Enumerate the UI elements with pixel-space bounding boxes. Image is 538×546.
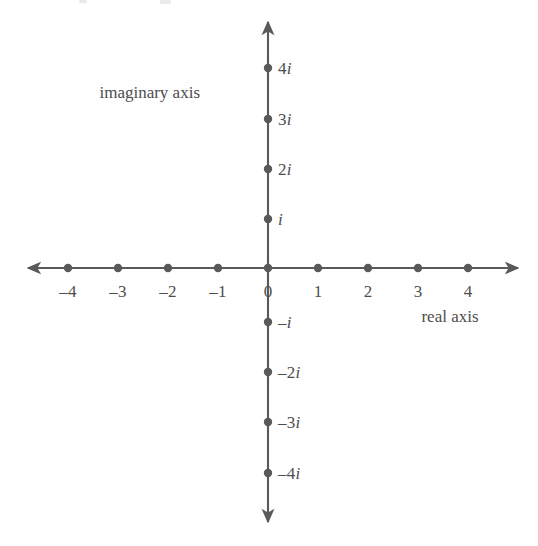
real-tick-label: –2	[159, 283, 176, 300]
tick-coefficient: –3	[278, 413, 295, 432]
imaginary-tick-label: –i	[278, 314, 292, 331]
tick-coefficient: –	[278, 313, 287, 332]
plot-point	[264, 215, 272, 223]
plot-point	[414, 264, 422, 272]
real-tick-label: 3	[414, 283, 423, 300]
imaginary-tick-label: –2i	[278, 364, 300, 381]
imaginary-unit-glyph: i	[287, 313, 292, 332]
imaginary-tick-label: –4i	[278, 465, 300, 482]
imaginary-unit-glyph: i	[287, 59, 292, 78]
plot-point	[264, 418, 272, 426]
plot-point	[264, 64, 272, 72]
tick-coefficient: –4	[278, 464, 295, 483]
axes-and-points	[0, 0, 538, 546]
real-tick-label: 0	[264, 283, 273, 300]
plot-point	[164, 264, 172, 272]
plot-point	[114, 264, 122, 272]
imaginary-unit-glyph: i	[295, 413, 300, 432]
plot-point	[264, 115, 272, 123]
plot-point	[214, 264, 222, 272]
real-tick-label: 2	[364, 283, 373, 300]
complex-plane-figure: imaginary axis real axis –4–3–2–101234 4…	[0, 0, 538, 546]
plot-point	[264, 264, 272, 272]
imaginary-unit-glyph: i	[295, 363, 300, 382]
imaginary-tick-label: 4i	[278, 60, 292, 77]
real-tick-label: 1	[314, 283, 323, 300]
tick-coefficient: –2	[278, 363, 295, 382]
real-axis-title: real axis	[421, 308, 478, 325]
plot-point	[264, 318, 272, 326]
plot-point	[264, 469, 272, 477]
plot-point	[264, 165, 272, 173]
real-tick-label: –1	[209, 283, 226, 300]
tick-coefficient: 3	[278, 110, 287, 129]
imaginary-unit-glyph: i	[287, 110, 292, 129]
real-tick-label: –3	[109, 283, 126, 300]
plot-point	[64, 264, 72, 272]
real-tick-label: –4	[59, 283, 76, 300]
imaginary-unit-glyph: i	[287, 160, 292, 179]
tick-coefficient: 4	[278, 59, 287, 78]
plot-point	[364, 264, 372, 272]
plot-point	[264, 368, 272, 376]
plot-point	[314, 264, 322, 272]
imaginary-tick-label: –3i	[278, 414, 300, 431]
imaginary-tick-label: 3i	[278, 111, 292, 128]
imaginary-tick-label: i	[278, 211, 283, 228]
imaginary-unit-glyph: i	[278, 210, 283, 229]
tick-coefficient: 2	[278, 160, 287, 179]
plot-point	[464, 264, 472, 272]
imaginary-axis-title: imaginary axis	[99, 84, 200, 101]
imaginary-tick-label: 2i	[278, 161, 292, 178]
real-tick-label: 4	[464, 283, 473, 300]
imaginary-unit-glyph: i	[295, 464, 300, 483]
